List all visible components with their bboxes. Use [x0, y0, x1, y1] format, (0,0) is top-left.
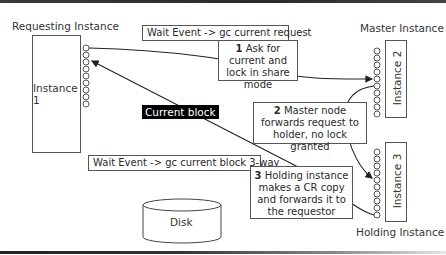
instance-1-label: Instance 1: [33, 36, 80, 152]
wait-event-block: Wait Event -> gc current block 3-way: [88, 155, 261, 171]
instance-3-ports: [374, 149, 380, 218]
step-3-number: 3: [255, 170, 262, 181]
disk-label: Disk: [170, 216, 193, 228]
master-instance-label: Master Instance: [360, 22, 444, 34]
instance-2-box[interactable]: Instance 2: [385, 40, 407, 118]
instance-1-ports: [83, 45, 89, 107]
requesting-instance-label: Requesting Instance: [12, 20, 119, 32]
wait-event-request: Wait Event -> gc current request: [142, 25, 289, 41]
step-3-box: 3 Holding instance makes a CR copy and f…: [250, 166, 353, 219]
instance-2-ports: [374, 48, 380, 117]
step-2-number: 2: [274, 105, 281, 116]
instance-3-box[interactable]: Instance 3: [385, 142, 407, 222]
instance-2-label: Instance 2: [391, 49, 403, 107]
step-1-box: 1 Ask for current and lock in share mode: [218, 40, 298, 81]
step-1-number: 1: [236, 43, 243, 54]
instance-3-label: Instance 3: [391, 152, 403, 210]
step-3-text: Holding instance makes a CR copy and for…: [257, 170, 348, 217]
instance-1-box[interactable]: Instance 1: [32, 35, 81, 153]
step-2-box: 2 Master node forwards request to holder…: [253, 102, 367, 144]
current-block-label: Current block: [142, 105, 219, 119]
holding-instance-label: Holding Instance: [356, 226, 444, 238]
